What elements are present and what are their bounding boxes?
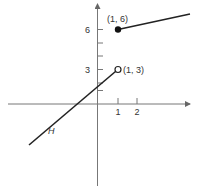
point-label-open: (1, 3): [123, 65, 144, 75]
open-circle-point: [115, 67, 121, 73]
piecewise-function-graph: 6 3 1 2 (1, 6) (1, 3) H: [0, 0, 198, 190]
tick-label-y6: 6: [85, 25, 90, 35]
tick-label-x2: 2: [135, 107, 140, 117]
x-ticks: [118, 98, 137, 104]
point-label-filled: (1, 6): [107, 14, 128, 24]
upper-segment: [118, 14, 190, 30]
lower-segment: [29, 72, 116, 146]
y-ticks: [98, 30, 104, 91]
tick-label-y3: 3: [85, 65, 90, 75]
tick-label-x1: 1: [116, 107, 121, 117]
function-label-h: H: [48, 126, 55, 136]
filled-circle-point: [115, 26, 121, 32]
